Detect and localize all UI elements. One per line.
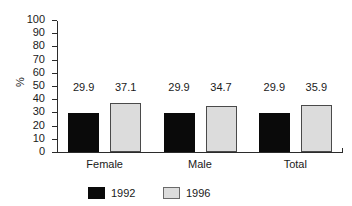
y-tick-label: 60 [33, 66, 45, 79]
bar [68, 113, 99, 152]
legend-label: 1992 [111, 187, 135, 200]
y-tick: 60 [52, 73, 57, 74]
y-tick-label: 80 [33, 39, 45, 52]
legend-item[interactable]: 1992 [88, 186, 135, 200]
bar [110, 103, 141, 152]
y-tick: 100 [52, 20, 57, 21]
category-label: Female [57, 157, 152, 171]
bar-value-label: 29.9 [253, 81, 296, 94]
bar-value-label: 35.9 [295, 81, 338, 94]
y-tick: 80 [52, 46, 57, 47]
bar-value-label: 37.1 [104, 81, 147, 94]
legend-label: 1996 [186, 187, 210, 200]
y-tick: 30 [52, 112, 57, 113]
x-axis-line [57, 152, 343, 153]
y-tick-label: 70 [33, 53, 45, 66]
y-tick: 20 [52, 126, 57, 127]
category-label: Total [248, 157, 343, 171]
x-tick-end [342, 148, 343, 153]
y-tick-label: 40 [33, 92, 45, 105]
legend-item[interactable]: 1996 [163, 186, 210, 200]
y-tick: 50 [52, 86, 57, 87]
y-tick-label: 0 [39, 145, 45, 158]
y-tick-label: 10 [33, 132, 45, 145]
bar-value-label: 29.9 [62, 81, 105, 94]
y-tick: 90 [52, 33, 57, 34]
legend-swatch [163, 187, 180, 199]
y-tick-label: 20 [33, 119, 45, 132]
category-label: Male [152, 157, 247, 171]
y-tick-label: 90 [33, 26, 45, 39]
y-axis-label: % [10, 75, 30, 89]
bar [164, 113, 195, 152]
y-tick: 70 [52, 60, 57, 61]
y-tick-label: 30 [33, 105, 45, 118]
bar-value-label: 34.7 [200, 81, 243, 94]
y-tick: 0 [52, 152, 57, 153]
y-tick-label: 100 [27, 13, 45, 26]
bar [259, 113, 290, 152]
y-axis-line [57, 21, 58, 153]
bar [206, 106, 237, 152]
y-tick: 10 [52, 139, 57, 140]
bar-value-label: 29.9 [158, 81, 201, 94]
bar-chart: % 0102030405060708090100 29.937.129.934.… [0, 0, 352, 206]
y-tick-label: 50 [33, 79, 45, 92]
legend-swatch [88, 187, 105, 199]
bar [301, 105, 332, 152]
plot-area: 0102030405060708090100 29.937.129.934.72… [57, 21, 343, 153]
chart-legend: 19921996 [0, 186, 352, 202]
y-tick: 40 [52, 99, 57, 100]
